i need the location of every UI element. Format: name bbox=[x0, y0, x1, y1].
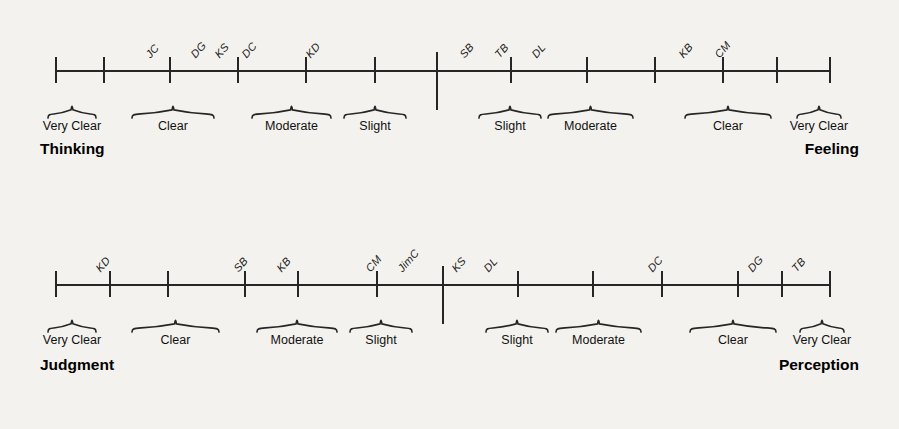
person-label-dg: DG bbox=[745, 253, 765, 274]
axis-tick bbox=[781, 271, 783, 297]
category-brace bbox=[252, 104, 331, 118]
category-brace bbox=[486, 318, 548, 332]
category-label: Moderate bbox=[522, 119, 659, 133]
category-brace bbox=[48, 318, 96, 332]
axis-tick bbox=[374, 57, 376, 83]
person-label-ks: KS bbox=[449, 255, 468, 274]
person-label-dl: DL bbox=[529, 41, 548, 60]
scale-judgment-perception: KDSBKBCMJimCKSDLDCDGTBVery ClearClearMod… bbox=[0, 214, 899, 429]
axis-tick bbox=[829, 271, 831, 297]
axis-tick bbox=[517, 271, 519, 297]
axis-tick bbox=[654, 57, 656, 83]
pole-label-right-0: Feeling bbox=[805, 140, 859, 158]
axis-tick bbox=[103, 57, 105, 83]
person-label-sb: SB bbox=[231, 255, 250, 274]
axis-center-divider bbox=[442, 266, 444, 324]
person-label-tb: TB bbox=[492, 41, 511, 60]
axis-tick bbox=[305, 57, 307, 83]
person-label-jimc: JimC bbox=[395, 247, 421, 274]
category-label: Very Clear bbox=[774, 333, 870, 347]
pole-label-left-0: Thinking bbox=[40, 140, 105, 158]
axis-tick bbox=[297, 271, 299, 297]
axis-tick bbox=[167, 271, 169, 297]
category-label: Slight bbox=[318, 119, 432, 133]
axis-tick bbox=[376, 271, 378, 297]
person-label-dg: DG bbox=[188, 39, 208, 60]
category-brace bbox=[350, 318, 412, 332]
category-brace bbox=[479, 104, 541, 118]
category-brace bbox=[797, 104, 841, 118]
axis-tick bbox=[592, 271, 594, 297]
category-label: Moderate bbox=[530, 333, 667, 347]
axis-tick bbox=[55, 271, 57, 297]
category-brace bbox=[48, 104, 96, 118]
axis-line bbox=[56, 70, 830, 72]
axis-tick bbox=[829, 57, 831, 83]
axis-tick bbox=[510, 57, 512, 83]
axis-tick bbox=[776, 57, 778, 83]
axis-tick bbox=[169, 57, 171, 83]
category-label: Clear bbox=[106, 119, 240, 133]
category-label: Clear bbox=[106, 333, 245, 347]
axis-tick bbox=[237, 57, 239, 83]
category-brace bbox=[690, 318, 776, 332]
person-label-cm: CM bbox=[712, 39, 733, 60]
axis-tick bbox=[244, 271, 246, 297]
category-brace bbox=[556, 318, 641, 332]
category-brace bbox=[685, 104, 771, 118]
person-label-kb: KB bbox=[676, 41, 695, 60]
category-brace bbox=[548, 104, 633, 118]
axis-center-divider bbox=[436, 52, 438, 110]
category-label: Slight bbox=[324, 333, 438, 347]
person-label-sb: SB bbox=[457, 41, 476, 60]
category-brace bbox=[344, 104, 406, 118]
person-label-dc: DC bbox=[239, 40, 259, 60]
category-brace bbox=[132, 318, 219, 332]
person-label-jc: JC bbox=[143, 42, 161, 60]
category-label: Very Clear bbox=[771, 119, 867, 133]
person-label-cm: CM bbox=[363, 253, 384, 274]
axis-tick bbox=[661, 271, 663, 297]
pole-label-left-1: Judgment bbox=[40, 356, 114, 374]
person-label-dl: DL bbox=[481, 255, 500, 274]
axis-thinking-feeling: JCDGKSDCKDSBTBDLKBCMVery ClearClearModer… bbox=[0, 0, 899, 215]
person-label-kb: KB bbox=[274, 255, 293, 274]
category-brace bbox=[800, 318, 844, 332]
axis-judgment-perception: KDSBKBCMJimCKSDLDCDGTBVery ClearClearMod… bbox=[0, 214, 899, 429]
axis-tick bbox=[586, 57, 588, 83]
category-brace bbox=[132, 104, 214, 118]
axis-tick bbox=[55, 57, 57, 83]
person-label-tb: TB bbox=[789, 255, 808, 274]
person-label-ks: KS bbox=[212, 41, 231, 60]
pole-label-right-1: Perception bbox=[779, 356, 859, 374]
scale-thinking-feeling: JCDGKSDCKDSBTBDLKBCMVery ClearClearModer… bbox=[0, 0, 899, 215]
axis-tick bbox=[722, 57, 724, 83]
category-brace bbox=[257, 318, 337, 332]
axis-tick bbox=[109, 271, 111, 297]
axis-tick bbox=[737, 271, 739, 297]
